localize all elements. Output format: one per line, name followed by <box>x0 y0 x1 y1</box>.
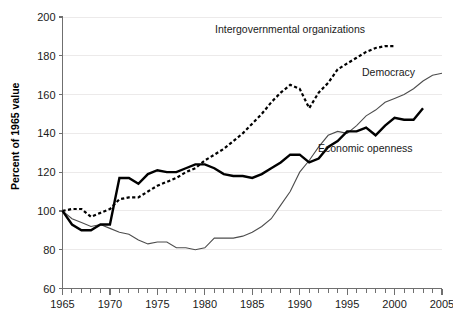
series-line-democracy <box>63 73 443 249</box>
series-line-intergovernmental-organizations <box>63 46 395 217</box>
series-annotations: Intergovernmental organizations Democrac… <box>215 23 416 154</box>
x-tick-label: 2000 <box>382 298 406 310</box>
x-tick-label: 1965 <box>50 298 74 310</box>
x-axis-tick-labels: 196519701975198019851990199520002005 <box>50 298 453 310</box>
line-chart: 6080100120140160180200 19651970197519801… <box>0 0 453 325</box>
x-axis: 196519701975198019851990199520002005 <box>50 289 453 310</box>
grid-lines <box>63 17 443 250</box>
y-tick-label: 140 <box>37 127 55 139</box>
x-tick-label: 2005 <box>430 298 453 310</box>
series-label-intergovernmental-organizations: Intergovernmental organizations <box>215 23 365 35</box>
x-tick-label: 1975 <box>145 298 169 310</box>
y-tick-label: 160 <box>37 89 55 101</box>
x-tick-label: 1995 <box>335 298 359 310</box>
y-tick-label: 180 <box>37 50 55 62</box>
series-label-economic-openness: Economic openness <box>318 142 413 154</box>
x-tick-label: 1990 <box>287 298 311 310</box>
y-axis-title: Percent of 1965 value <box>9 82 21 190</box>
y-tick-label: 200 <box>37 11 55 23</box>
y-tick-label: 100 <box>37 205 55 217</box>
y-tick-label: 60 <box>43 283 55 295</box>
series-label-democracy: Democracy <box>362 66 416 78</box>
y-tick-label: 120 <box>37 166 55 178</box>
y-tick-label: 80 <box>43 244 55 256</box>
x-tick-label: 1970 <box>98 298 122 310</box>
y-axis: 6080100120140160180200 <box>37 11 62 295</box>
x-tick-label: 1985 <box>240 298 264 310</box>
y-axis-tick-labels: 6080100120140160180200 <box>37 11 55 295</box>
x-tick-label: 1980 <box>193 298 217 310</box>
series-line-economic-openness <box>63 108 424 230</box>
chart-container: 6080100120140160180200 19651970197519801… <box>0 0 453 325</box>
